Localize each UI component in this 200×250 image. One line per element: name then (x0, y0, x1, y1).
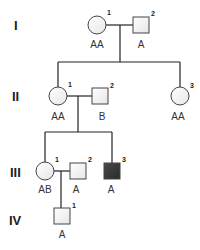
individual-number: 1 (72, 202, 76, 209)
individual-number: 1 (68, 81, 72, 88)
female-symbol-icon (36, 162, 54, 180)
individual-I-2: 2 A (133, 10, 155, 50)
individual-II-3: 3 AA (171, 82, 194, 122)
female-symbol-icon (171, 87, 189, 105)
individual-number: 2 (110, 82, 114, 89)
genotype-label: AB (38, 184, 52, 195)
female-symbol-icon (88, 16, 106, 34)
female-symbol-icon (49, 87, 67, 105)
pedigree-diagram: I II III IV 1 AA 2 A 1 AA 2 B (0, 0, 200, 250)
genotype-label: AA (51, 111, 65, 122)
male-symbol-icon (70, 163, 86, 179)
individual-I-1: 1 AA (88, 9, 111, 50)
individual-II-2: 2 B (92, 82, 114, 122)
generation-label-IV: IV (9, 213, 22, 228)
affected-male-symbol-icon (104, 163, 120, 179)
genotype-label: B (99, 111, 106, 122)
individual-II-1: 1 AA (49, 81, 72, 122)
individual-number: 3 (190, 82, 194, 89)
connector-lines (45, 25, 180, 208)
individual-number: 2 (88, 156, 92, 163)
individual-number: 1 (55, 156, 59, 163)
male-symbol-icon (54, 208, 70, 224)
individual-number: 2 (151, 10, 155, 17)
individual-number: 1 (107, 9, 111, 16)
individual-IV-1: 1 A (54, 202, 76, 240)
individual-III-3: 3 A (104, 156, 126, 195)
generation-label-III: III (10, 165, 21, 180)
individual-number: 3 (122, 156, 126, 163)
male-symbol-icon (133, 17, 149, 33)
individual-III-1: 1 AB (36, 156, 59, 195)
genotype-label: AA (171, 111, 185, 122)
generation-label-II: II (12, 89, 19, 104)
male-symbol-icon (92, 88, 108, 104)
generation-label-I: I (14, 18, 18, 33)
genotype-label: A (138, 39, 145, 50)
genotype-label: A (73, 184, 80, 195)
genotype-label: AA (90, 39, 104, 50)
individual-III-2: 2 A (70, 156, 92, 195)
genotype-label: A (108, 184, 115, 195)
genotype-label: A (59, 229, 66, 240)
